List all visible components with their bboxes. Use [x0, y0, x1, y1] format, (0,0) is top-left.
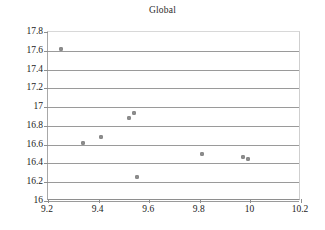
y-axis-tick-label: 17.6 — [0, 45, 43, 55]
y-tick-mark — [44, 32, 48, 33]
data-point — [127, 116, 131, 120]
x-tick-mark — [48, 199, 49, 203]
y-tick-mark — [44, 70, 48, 71]
gridline — [48, 182, 299, 183]
y-tick-mark — [44, 182, 48, 183]
y-axis-tick-label: 17 — [0, 101, 43, 111]
y-axis-tick-label: 16.6 — [0, 139, 43, 149]
data-point — [135, 175, 139, 179]
y-axis-tick-label: 17.4 — [0, 64, 43, 74]
y-axis-tick-label: 16.2 — [0, 176, 43, 186]
gridline — [48, 107, 299, 108]
y-axis-tick-label: 16.8 — [0, 120, 43, 130]
data-point — [246, 157, 250, 161]
chart-title: Global — [0, 5, 325, 15]
data-point — [132, 111, 136, 115]
y-axis-tick-label: 16.4 — [0, 157, 43, 167]
y-tick-mark — [44, 126, 48, 127]
data-point — [59, 47, 63, 51]
x-tick-mark — [301, 199, 302, 203]
gridline — [48, 145, 299, 146]
gridline — [48, 126, 299, 127]
x-axis-labels: 9.29.49.69.81010.2 — [47, 204, 300, 220]
y-tick-mark — [44, 107, 48, 108]
x-tick-mark — [149, 199, 150, 203]
x-axis-tick-label: 9.6 — [128, 204, 168, 214]
plot-area — [47, 31, 300, 200]
y-axis-labels: 1616.216.416.616.81717.217.417.617.8 — [0, 31, 43, 200]
data-point — [200, 152, 204, 156]
gridline — [48, 201, 299, 202]
x-axis-tick-label: 10.2 — [280, 204, 320, 214]
x-axis-tick-label: 10 — [229, 204, 269, 214]
y-axis-tick-label: 17.8 — [0, 26, 43, 36]
data-point — [99, 135, 103, 139]
scatter-chart: Global 1616.216.416.616.81717.217.417.61… — [0, 0, 325, 230]
x-tick-mark — [250, 199, 251, 203]
gridline — [48, 163, 299, 164]
data-point — [241, 155, 245, 159]
y-tick-mark — [44, 88, 48, 89]
x-axis-tick-label: 9.4 — [78, 204, 118, 214]
gridline — [48, 70, 299, 71]
y-tick-mark — [44, 51, 48, 52]
y-axis-tick-label: 17.2 — [0, 82, 43, 92]
y-tick-mark — [44, 145, 48, 146]
x-axis-tick-label: 9.8 — [179, 204, 219, 214]
x-tick-mark — [200, 199, 201, 203]
y-tick-mark — [44, 163, 48, 164]
x-tick-mark — [99, 199, 100, 203]
gridline — [48, 51, 299, 52]
gridline — [48, 88, 299, 89]
x-axis-tick-label: 9.2 — [27, 204, 67, 214]
